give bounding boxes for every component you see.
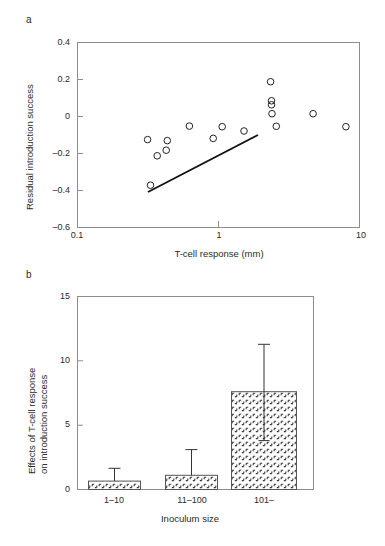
panel-b-plot xyxy=(0,0,385,546)
bar-11-100 xyxy=(166,475,218,489)
panel-b-y-tickmarks xyxy=(78,297,84,490)
figure-container: a 0.4 0.2 0 –0.2 –0.4 –0.6 Residual intr… xyxy=(0,0,385,546)
bar-1-10 xyxy=(89,481,141,489)
